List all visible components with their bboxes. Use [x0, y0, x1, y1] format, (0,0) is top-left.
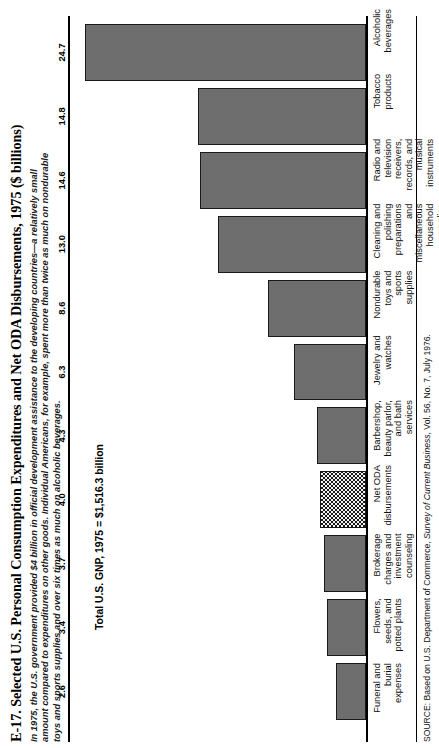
- category-label: Cleaning and polishing preparations and …: [372, 203, 416, 263]
- bar-value-label: 3.7: [56, 557, 67, 570]
- bar-value-label: 6.3: [56, 365, 67, 378]
- category-label: Radio and television receivers, records,…: [372, 138, 416, 196]
- bar-value-label: 24.7: [56, 43, 67, 61]
- bar-value-label: 4.0: [56, 493, 67, 506]
- bar-value-label: 8.6: [56, 302, 67, 315]
- bar-value-label: 14.6: [56, 171, 67, 189]
- subtitle-line-1: In 1975, the U.S. government provided $4…: [29, 42, 41, 742]
- bar: 3.4: [327, 599, 366, 656]
- bar-value-label: 13.0: [56, 235, 67, 253]
- source-note: SOURCE: Based on U.S. Department of Comm…: [422, 334, 433, 742]
- category-label: Tobacco products: [372, 73, 416, 131]
- bar-slot: 6.3: [70, 344, 366, 401]
- source-publication: Survey of Current Business: [422, 434, 432, 539]
- category-label: Nondurable toys and sports supplies: [372, 269, 416, 327]
- bar-slot: 14.6: [70, 152, 366, 209]
- bar-slot: 4.0: [70, 471, 366, 528]
- figure-subtitle: In 1975, the U.S. government provided $4…: [29, 42, 64, 742]
- bar: 2.6: [336, 663, 366, 720]
- category-axis-labels: Funeral and burial expensesFlowers, seed…: [372, 8, 416, 720]
- source-divider: [416, 16, 417, 742]
- bar-slot: 8.6: [70, 280, 366, 337]
- category-label: Brokerage charges and investment counsel…: [372, 532, 416, 590]
- bar-slot: 4.3: [70, 407, 366, 464]
- bar: 3.7: [324, 535, 366, 592]
- bar-value-label: 3.4: [56, 621, 67, 634]
- bar-series: 2.63.43.74.04.36.38.613.014.614.824.7: [70, 24, 366, 720]
- figure-E-17: E-17. Selected U.S. Personal Consumption…: [0, 0, 439, 748]
- bar: 13.0: [218, 216, 366, 273]
- bar-slot: 24.7: [70, 24, 366, 81]
- source-suffix: , Vol. 56, No. 7, July 1976.: [422, 334, 432, 434]
- bar: 8.6: [268, 280, 366, 337]
- subtitle-line-3: toys and sports supplies and over six ti…: [52, 42, 64, 742]
- source-prefix: SOURCE: Based on U.S. Department of Comm…: [422, 539, 432, 742]
- bar: 4.0: [320, 471, 366, 528]
- bar: 6.3: [294, 344, 366, 401]
- bar: 4.3: [317, 407, 366, 464]
- figure-title: E-17. Selected U.S. Personal Consumption…: [8, 4, 25, 742]
- chart-baseline-axis: [366, 16, 368, 742]
- category-label: Flowers, seeds, and potted plants: [372, 597, 416, 655]
- category-label: Net ODA disbursements: [372, 464, 416, 525]
- category-label: Barbershop, beauty parlor, and bath serv…: [372, 399, 416, 457]
- subtitle-line-2: amount compared to expenditures on other…: [40, 42, 52, 742]
- category-label: Alcoholic beverages: [372, 8, 416, 66]
- bar-slot: 3.7: [70, 535, 366, 592]
- bar: 24.7: [85, 24, 366, 81]
- bar-value-label: 14.8: [56, 107, 67, 125]
- bar-slot: 3.4: [70, 599, 366, 656]
- bar-value-label: 4.3: [56, 429, 67, 442]
- bar: 14.6: [200, 152, 366, 209]
- category-label: Jewelry and watches: [372, 334, 416, 392]
- bar-slot: 14.8: [70, 88, 366, 145]
- bar-slot: 2.6: [70, 663, 366, 720]
- bar: 14.8: [198, 88, 366, 145]
- bar-chart-plot-area: Total U.S. GNP, 1975 = $1,516.3 billion …: [68, 16, 368, 742]
- figure-heading: E-17. Selected U.S. Personal Consumption…: [8, 4, 63, 742]
- figure-canvas: E-17. Selected U.S. Personal Consumption…: [0, 0, 439, 748]
- bar-slot: 13.0: [70, 216, 366, 273]
- bar-value-label: 2.6: [56, 685, 67, 698]
- category-label: Funeral and burial expenses: [372, 662, 416, 720]
